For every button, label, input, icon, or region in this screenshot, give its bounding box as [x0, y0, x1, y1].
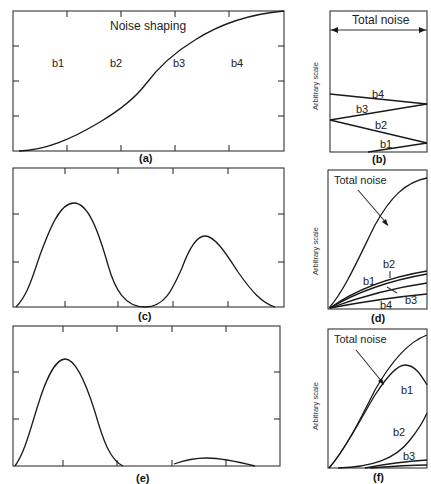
panel-a-caption: (a) — [139, 152, 153, 164]
band-label-b4: b4 — [231, 57, 243, 69]
panel-c-ticks — [13, 168, 284, 307]
label-b2: b2 — [383, 258, 395, 270]
spectrum-bump-e — [174, 458, 255, 466]
panel-e: (e) — [13, 326, 280, 484]
panel-e-caption: (e) — [136, 472, 150, 484]
label-b1: b1 — [363, 275, 375, 287]
spectrum-curve-e — [15, 359, 123, 466]
band-label-b1: b1 — [52, 57, 64, 69]
arrow-right-icon — [419, 27, 426, 33]
label-b1: b1 — [380, 138, 392, 150]
panel-a: Noise shaping b1 b2 b3 b4 (a) — [13, 11, 284, 164]
band-label-b3: b3 — [173, 57, 185, 69]
label-b2: b2 — [393, 426, 405, 438]
panel-c-caption: (c) — [138, 310, 152, 322]
label-b2: b2 — [375, 119, 387, 131]
panel-f-ylabel: Arbitrary scale — [311, 382, 320, 430]
panel-f-caption: (f) — [373, 471, 384, 483]
panel-c: (c) — [13, 168, 284, 322]
panel-b-caption: (b) — [372, 153, 386, 165]
band-label-b2: b2 — [110, 57, 122, 69]
arrow-icon — [382, 219, 388, 226]
total-noise-pointer — [358, 190, 388, 225]
label-b3: b3 — [356, 103, 368, 115]
label-b3: b3 — [403, 450, 415, 462]
label-b1: b1 — [401, 384, 413, 396]
line-b1 — [368, 143, 427, 152]
spectrum-curve-c — [16, 203, 275, 307]
line-total-noise — [329, 178, 427, 308]
line-b3 — [365, 460, 427, 468]
arrow-left-icon — [331, 27, 338, 33]
line-b3 — [330, 104, 427, 120]
panel-d: Arbitrary scale Total noise b2 b1 b3 b4 … — [311, 170, 427, 324]
figure-canvas: Noise shaping b1 b2 b3 b4 (a) Total nois… — [0, 0, 431, 484]
total-noise-annotation: Total noise — [334, 333, 387, 345]
total-noise-annotation: Total noise — [334, 174, 387, 186]
total-noise-pointer — [356, 350, 383, 383]
panel-d-ylabel: Arbitrary scale — [311, 227, 320, 275]
panel-b-ylabel: Arbitrary scale — [311, 62, 320, 110]
panel-a-title: Noise shaping — [110, 19, 186, 33]
panel-b-header: Total noise — [352, 13, 410, 27]
label-b3: b3 — [405, 294, 417, 306]
panel-d-caption: (d) — [371, 312, 385, 324]
label-b4: b4 — [380, 299, 392, 311]
label-b4: b4 — [372, 88, 384, 100]
panel-c-frame — [13, 168, 284, 307]
panel-b: Total noise Arbitrary scale b4 b3 b2 b1 … — [311, 11, 427, 165]
panel-e-ticks — [13, 326, 280, 466]
panel-f: Arbitrary scale Total noise b1 b2 b3 (f) — [311, 329, 427, 483]
panel-e-frame — [13, 326, 280, 466]
panel-f-frame — [328, 329, 427, 468]
